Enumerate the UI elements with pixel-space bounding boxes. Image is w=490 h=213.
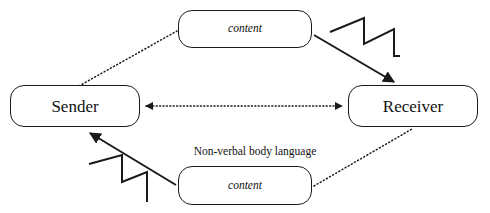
- node-content-bottom[interactable]: content: [178, 166, 312, 205]
- node-sender-label: Sender: [51, 98, 98, 115]
- node-content-bottom-label: content: [228, 180, 262, 192]
- edge-sender-to-content-top: [79, 31, 177, 86]
- edge-receiver-to-content-bottom: [314, 129, 412, 186]
- node-receiver[interactable]: Receiver: [348, 85, 478, 127]
- node-sender[interactable]: Sender: [10, 85, 140, 127]
- node-content-top-label: content: [228, 23, 262, 35]
- communication-model-diagram: Sender Receiver content content Non-verb…: [0, 0, 490, 213]
- edge-content-top-to-receiver: [314, 35, 394, 82]
- edge-label-non-verbal-body-language: Non-verbal body language: [175, 145, 335, 157]
- node-receiver-label: Receiver: [383, 98, 443, 115]
- node-content-top[interactable]: content: [178, 10, 312, 48]
